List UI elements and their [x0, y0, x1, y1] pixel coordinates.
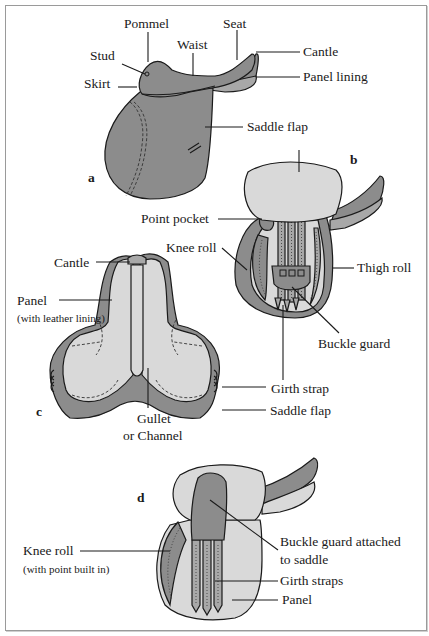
label-girth-strap: Girth strap: [271, 381, 329, 396]
label-gullet-line1: Gullet: [137, 411, 171, 426]
panel-letter-c: c: [36, 404, 42, 420]
label-saddle-flap-c: Saddle flap: [270, 403, 331, 418]
label-panel-c: Panel: [17, 293, 47, 308]
label-panel-c-note: (with leather lining): [17, 312, 105, 325]
label-thigh-roll: Thigh roll: [357, 260, 411, 275]
label-panel-lining: Panel lining: [303, 69, 368, 84]
label-knee-roll-d: Knee roll: [23, 543, 74, 558]
panel-letter-a: a: [88, 170, 95, 186]
label-cantle-c: Cantle: [54, 255, 89, 270]
label-knee-roll-d-note: (with point built in): [23, 563, 109, 576]
saddle-c-illustration: [50, 254, 266, 419]
label-girth-straps: Girth straps: [280, 573, 343, 588]
label-skirt: Skirt: [84, 76, 110, 91]
label-buckle-guard-attached-line1: Buckle guard attached: [280, 534, 401, 549]
label-buckle-guard-attached-line2: to saddle: [280, 552, 328, 567]
panel-letter-d: d: [137, 490, 145, 506]
label-point-pocket: Point pocket: [141, 211, 209, 226]
label-saddle-flap-a: Saddle flap: [247, 119, 308, 134]
panel-letter-b: b: [350, 152, 358, 168]
label-stud: Stud: [90, 48, 115, 63]
label-seat: Seat: [223, 16, 246, 31]
label-cantle-a: Cantle: [303, 44, 338, 59]
label-pommel: Pommel: [124, 16, 169, 31]
label-buckle-guard: Buckle guard: [318, 336, 390, 351]
label-knee-roll-b: Knee roll: [166, 240, 217, 255]
label-panel-d: Panel: [282, 592, 312, 607]
label-gullet-line2: or Channel: [123, 428, 183, 443]
label-waist: Waist: [177, 37, 207, 52]
